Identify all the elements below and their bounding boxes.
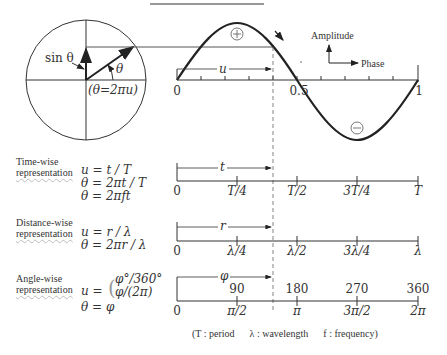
distance-equations: u = r / λ θ = 2πr / λ — [81, 226, 146, 252]
angle-wise-title: Angle-wise representation — [16, 273, 73, 295]
wave-tick-0-5: 0.5 — [289, 84, 308, 98]
angle-tick-two-pi: 2π — [410, 304, 426, 318]
angle-u-equation: u = — [81, 285, 103, 298]
time-tick-quarter: T/4 — [227, 184, 247, 198]
wave-tick-1: 1 — [415, 84, 423, 98]
t-span-label: t — [218, 161, 227, 174]
angle-theta-equation: θ = φ — [81, 301, 114, 314]
angle-tick-three-half-pi: 3π/2 — [343, 304, 370, 318]
time-wise-title: Time-wise representation — [16, 156, 73, 178]
time-tick-full: T — [414, 184, 422, 198]
phase-label: Phase — [361, 58, 384, 69]
radius-vector-arrow — [86, 47, 133, 80]
distance-tick-half: λ/2 — [287, 244, 306, 258]
sine-wave — [177, 23, 418, 140]
sine-curve — [177, 23, 418, 140]
r-span-label: r — [218, 220, 228, 233]
angle-deg-270: 270 — [346, 282, 369, 296]
u-label: u — [217, 63, 229, 76]
theta-formula: (θ=2πu) — [88, 84, 138, 97]
time-equations: u = t / T θ = 2πt / T θ = 2πft — [81, 164, 146, 203]
distance-tick-quarter: λ/4 — [227, 244, 246, 258]
angle-tick-half-pi: π/2 — [227, 304, 247, 318]
sin-pointer-arrow — [72, 63, 84, 69]
distance-tick-0: 0 — [173, 244, 181, 258]
wave-tick-0: 0 — [173, 84, 181, 98]
theta-label: θ — [116, 63, 123, 76]
angle-deg-180: 180 — [286, 282, 309, 296]
angle-fraction-options: φ°/360° φ/(2π) — [115, 273, 162, 299]
amplitude-label: Amplitude — [311, 30, 354, 41]
direction-arrow — [275, 31, 283, 40]
time-tick-three-quarter: 3T/4 — [343, 184, 370, 198]
angle-deg-360: 360 — [407, 282, 430, 296]
time-tick-0: 0 — [173, 184, 181, 198]
footnote: (T : period λ : wavelength f : frequency… — [192, 328, 378, 339]
time-axis — [177, 163, 418, 186]
angle-tick-0: 0 — [173, 304, 181, 318]
angle-tick-pi: π — [293, 304, 301, 318]
angle-arc-arrow — [108, 65, 113, 80]
time-tick-half: T/2 — [287, 184, 307, 198]
distance-wise-title: Distance-wise representation — [16, 217, 73, 239]
distance-axis — [177, 222, 418, 246]
angle-deg-90: 90 — [229, 282, 244, 296]
distance-tick-full: λ — [414, 244, 422, 258]
distance-tick-three-quarter: 3λ/4 — [344, 244, 371, 258]
sin-theta-label: sin θ — [45, 52, 74, 65]
